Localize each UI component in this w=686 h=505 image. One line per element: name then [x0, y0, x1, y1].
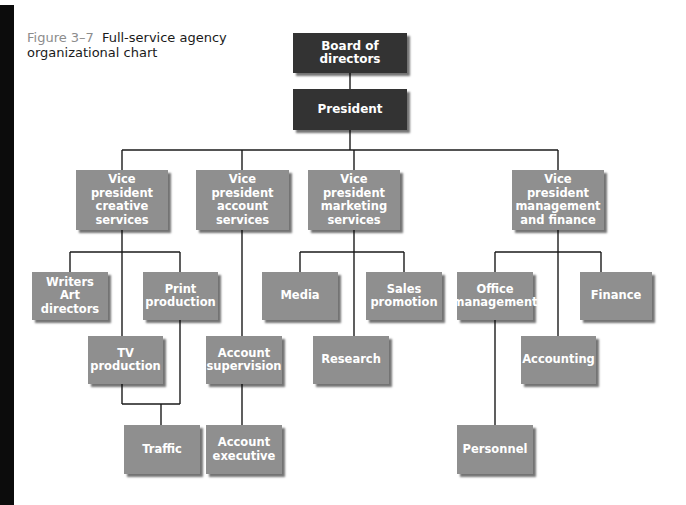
node-print-production: Print production: [143, 272, 218, 320]
node-vp-management-finance: Vice president management and finance: [512, 170, 604, 230]
connector-lines: [0, 0, 686, 505]
node-writers-art-directors: Writers Art directors: [32, 272, 108, 320]
node-finance: Finance: [580, 272, 652, 320]
node-personnel: Personnel: [457, 425, 533, 474]
node-media: Media: [262, 272, 338, 320]
node-account-executive: Account executive: [206, 425, 282, 474]
node-board-of-directors: Board of directors: [293, 33, 407, 73]
node-office-management: Office management: [457, 272, 533, 320]
node-traffic: Traffic: [124, 425, 200, 474]
node-vp-account-services: Vice president account services: [196, 170, 289, 230]
node-president: President: [293, 89, 407, 130]
node-account-supervision: Account supervision: [206, 336, 282, 384]
node-research: Research: [313, 336, 389, 384]
node-vp-creative-services: Vice president creative services: [76, 170, 168, 230]
node-tv-production: TV production: [88, 336, 163, 384]
node-vp-marketing-services: Vice president marketing services: [308, 170, 400, 230]
node-accounting: Accounting: [521, 336, 596, 384]
node-sales-promotion: Sales promotion: [366, 272, 442, 320]
